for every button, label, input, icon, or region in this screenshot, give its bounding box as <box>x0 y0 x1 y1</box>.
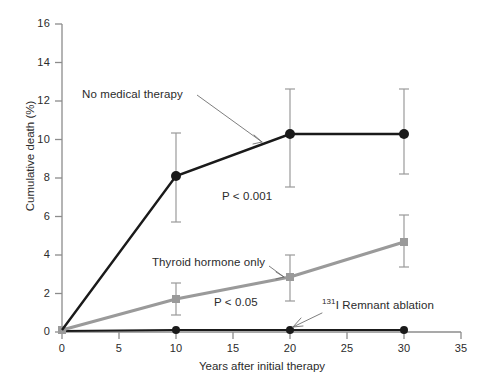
data-point-nomed-30 <box>399 129 409 139</box>
series-remnant-ablation <box>62 326 408 334</box>
data-point-nomed-10 <box>171 171 181 181</box>
annotation-no-medical-therapy: No medical therapy <box>82 88 183 100</box>
x-tick-label-15: 15 <box>219 342 247 354</box>
x-tick-label-30: 30 <box>390 342 418 354</box>
data-point-thyroid-20 <box>286 273 294 281</box>
y-axis-ticks <box>55 24 62 332</box>
axis-lines <box>62 24 461 332</box>
x-tick-label-35: 35 <box>447 342 475 354</box>
x-tick-label-0: 0 <box>48 342 76 354</box>
data-point-remnant-30 <box>400 326 408 334</box>
x-axis-ticks <box>62 332 461 339</box>
error-bars-no-medical <box>171 89 409 222</box>
y-axis-title: Cumulative death (%) <box>24 76 36 236</box>
series-remnant-ablation-line <box>62 330 404 331</box>
annotation-p-value-gray: P < 0.05 <box>214 296 258 308</box>
figure-container: 16 14 12 10 8 6 4 2 0 0 5 10 15 20 25 30… <box>0 0 484 390</box>
data-point-thyroid-30 <box>400 238 408 246</box>
annotation-thyroid-hormone-only: Thyroid hormone only <box>152 256 265 268</box>
leader-line-remnant-ablation <box>293 313 322 327</box>
y-tick-label-0: 0 <box>16 325 50 337</box>
x-tick-label-20: 20 <box>276 342 304 354</box>
y-tick-label-14: 14 <box>16 56 50 68</box>
data-point-nomed-20 <box>285 129 295 139</box>
y-tick-label-4: 4 <box>16 248 50 260</box>
y-tick-label-16: 16 <box>16 17 50 29</box>
annotation-p-value-black: P < 0.001 <box>222 190 272 202</box>
annotation-remnant-text: I Remnant ablation <box>336 299 434 311</box>
x-tick-label-10: 10 <box>162 342 190 354</box>
leader-line-no-medical-therapy <box>197 95 262 142</box>
data-point-thyroid-10 <box>172 295 180 303</box>
annotation-remnant-superscript: 131 <box>322 297 336 306</box>
series-thyroid-hormone <box>58 215 409 334</box>
series-no-medical-therapy <box>62 89 409 330</box>
x-tick-label-5: 5 <box>105 342 133 354</box>
y-tick-label-2: 2 <box>16 287 50 299</box>
data-point-remnant-10 <box>172 326 180 334</box>
x-axis-title: Years after initial therapy <box>62 360 462 372</box>
annotation-remnant-ablation: 131I Remnant ablation <box>322 299 434 311</box>
x-tick-label-25: 25 <box>333 342 361 354</box>
